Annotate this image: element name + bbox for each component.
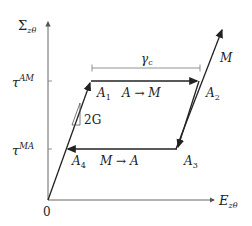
point-a3-label: A3 [183,154,198,170]
tau-ma-label: τMA [12,141,34,158]
point-a2-label: A2 [205,86,220,102]
gamma-c-label: γc [141,52,153,67]
origin-label: 0 [43,205,51,219]
forward-transition-label: A → M [121,86,161,100]
point-a1-label: A1 [96,86,111,102]
point-a4-label: A4 [71,154,86,170]
hysteresis-diagram: Σzθ Ezθ 0 τAM τMA A1 A2 A3 A4 A → M M → … [0,0,252,226]
reverse-transition-label: M → A [99,154,139,168]
tau-am-label: τAM [12,73,34,90]
unloading-segment [178,81,199,147]
slope-label: 2G [84,113,101,127]
martensite-branch-label: M [219,51,233,65]
elastic-loading-segment [48,83,90,200]
y-axis-label: Σzθ [18,18,36,35]
x-axis-label: Ezθ [218,193,238,210]
